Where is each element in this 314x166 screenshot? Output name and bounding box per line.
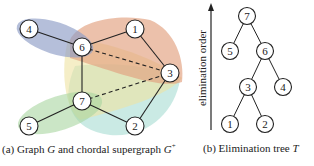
caption-a-prefix: (a) Graph [2,143,47,155]
svg-text:2: 2 [132,120,138,132]
tree-node-5: 5 [222,43,239,60]
svg-text:7: 7 [244,10,250,22]
graph-node-1: 1 [126,20,144,38]
graph-node-7: 7 [73,92,91,110]
caption-a-sup: + [172,142,176,150]
svg-text:4: 4 [280,81,286,93]
caption-b-prefix: (b) Elimination tree [203,142,293,154]
caption-a-gplus: G [164,143,172,155]
tree-node-1: 1 [222,116,239,133]
tree-node-4: 4 [275,79,292,96]
graph-node-2: 2 [126,117,144,135]
svg-text:5: 5 [26,120,32,132]
svg-text:4: 4 [26,23,32,35]
graph-node-6: 6 [73,38,91,56]
caption-a: (a) Graph G and chordal supergraph G+ [2,142,176,155]
graph-node-3: 3 [161,64,179,82]
caption-a-middle: and chordal supergraph [55,143,164,155]
svg-text:1: 1 [227,118,233,130]
tree-node-2: 2 [257,116,274,133]
svg-text:7: 7 [79,95,85,107]
graph-node-5: 5 [20,117,38,135]
caption-b: (b) Elimination tree T [203,142,299,154]
svg-text:6: 6 [79,41,85,53]
svg-text:5: 5 [227,45,233,57]
svg-text:6: 6 [262,45,268,57]
svg-text:3: 3 [167,67,173,79]
tree-node-6: 6 [257,43,274,60]
tree-edges [230,16,283,124]
tree-node-3: 3 [240,79,257,96]
svg-text:1: 1 [132,23,138,35]
tree-node-7: 7 [239,8,256,25]
elimination-order-arrow: elimination order [196,3,214,130]
elimination-order-label: elimination order [196,30,208,106]
graph-node-4: 4 [20,20,38,38]
caption-b-t: T [293,142,299,154]
svg-text:3: 3 [245,81,251,93]
svg-text:2: 2 [262,118,268,130]
caption-a-g: G [47,143,55,155]
